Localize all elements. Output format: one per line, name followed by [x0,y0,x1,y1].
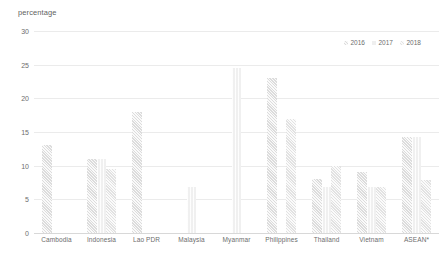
bar [106,169,116,233]
bar-group [79,31,124,233]
bar-slot [87,31,97,233]
x-axis-tick-label: Myanmar [223,236,251,243]
bar-group [304,31,349,233]
bar-group [124,31,169,233]
bar-group [214,31,259,233]
bar [357,172,367,233]
bar-slot [421,31,431,233]
x-axis-tick-labels: CambodiaIndonesiaLao PDRMalaysiaMyanmarP… [34,236,439,256]
y-axis-tick-label: 20 [21,95,29,102]
bar-slot [267,31,277,233]
x-axis-tick-label: Lao PDR [133,236,160,243]
x-axis-tick-label: Cambodia [41,236,71,243]
y-axis-tick-label: 15 [21,129,29,136]
bar-group [394,31,439,233]
x-axis-tick-label: Indonesia [87,236,116,243]
bar-slot [402,31,412,233]
plot-area: 051015202530 [34,31,439,233]
bar [187,187,197,233]
y-axis-tick-label: 0 [25,230,29,237]
bar [132,112,142,233]
bar-slot [412,31,422,233]
bar-group [169,31,214,233]
bar-chart: percentage 201620172018 051015202530 Cam… [0,0,447,263]
bar [331,166,341,233]
bar [232,68,242,233]
bar [42,145,52,233]
bar-slot [232,31,242,233]
bar [87,159,97,233]
bar-slot [357,31,367,233]
bar-slot [106,31,116,233]
bar-slot [376,31,386,233]
bar [367,187,377,233]
y-axis-tick-label: 5 [25,196,29,203]
bar-slot [367,31,377,233]
bar [376,187,386,233]
bar-slot [322,31,332,233]
x-axis-tick-label: Vietnam [359,236,383,243]
bar [412,137,422,233]
bar [267,78,277,233]
bar-group [349,31,394,233]
x-axis-tick-label: Thailand [314,236,340,243]
x-axis-tick-label: ASEAN* [404,236,429,243]
bar-group [34,31,79,233]
y-axis-tick-label: 25 [21,61,29,68]
bar [421,180,431,233]
x-axis-tick-label: Malaysia [178,236,204,243]
bar-slot [97,31,107,233]
x-axis-tick-label: Philippines [265,236,298,243]
y-axis-tick-label: 30 [21,28,29,35]
bar-slot [132,31,142,233]
y-axis-tick-label: 10 [21,162,29,169]
bars-layer [34,31,439,233]
bar-slot [286,31,296,233]
gridline [34,233,439,234]
bar-group [259,31,304,233]
bar-slot [187,31,197,233]
bar-slot [312,31,322,233]
bar [97,159,107,233]
bar [312,179,322,233]
bar [402,137,412,233]
bar [286,119,296,233]
bar-slot [42,31,52,233]
bar [322,187,332,233]
bar-slot [331,31,341,233]
y-axis-title: percentage [18,8,57,17]
